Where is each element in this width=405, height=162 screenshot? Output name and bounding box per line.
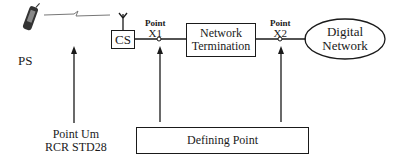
digital-network-node: Digital Network	[304, 18, 386, 60]
nt-line2: Termination	[192, 40, 250, 53]
arrow-x1-icon	[157, 46, 163, 54]
ps-label: PS	[18, 53, 32, 69]
point-um-line2: RCR STD28	[45, 141, 107, 154]
arrow-um-icon	[71, 46, 77, 54]
antenna-icon	[119, 13, 127, 30]
point-x1-label: Point X1	[145, 19, 166, 39]
phone-icon	[22, 1, 40, 31]
defining-point-box: Defining Point	[136, 127, 309, 154]
point-x1-id: X1	[145, 28, 166, 39]
arrow-x2-icon	[278, 46, 284, 54]
cs-box: CS	[111, 30, 135, 49]
dn-line2: Network	[322, 39, 368, 53]
point-x2-id: X2	[270, 28, 291, 39]
cs-label: CS	[115, 32, 131, 48]
point-x2-label: Point X2	[270, 19, 291, 39]
network-termination-box: Network Termination	[186, 23, 256, 57]
dn-line1: Digital	[327, 25, 363, 39]
point-um-label: Point Um RCR STD28	[45, 128, 107, 154]
radio-link	[44, 11, 110, 16]
defining-point-label: Defining Point	[187, 133, 258, 148]
